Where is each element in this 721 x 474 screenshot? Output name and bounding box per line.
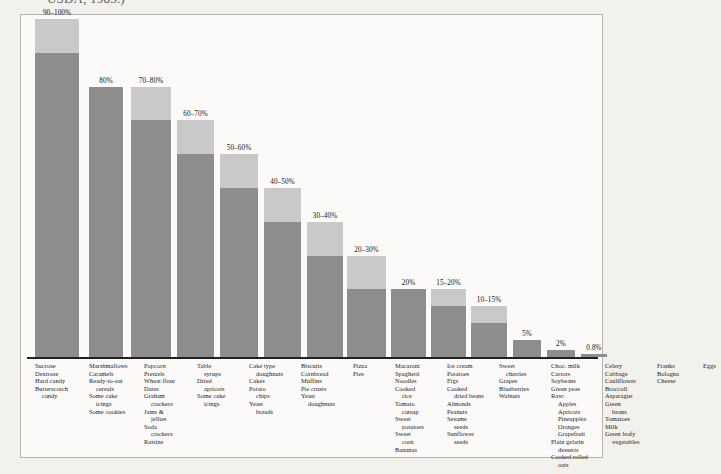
category-label-item: Walnuts	[499, 392, 547, 400]
category-label-item: Bologna	[657, 370, 699, 378]
category-label-item: Choc. milk	[551, 362, 601, 370]
category-label-item: dried beans	[447, 392, 495, 400]
category-label-column: PopcornPretzelsWheat flourDatesGrahamcra…	[144, 362, 192, 446]
bar-column: 50–60%	[220, 154, 258, 357]
category-label-item: seeds	[447, 438, 495, 446]
category-label-item: Some cake	[197, 392, 245, 400]
category-label-item: Eggs	[703, 362, 721, 370]
category-label-item: Cakes	[249, 377, 297, 385]
category-label-item: Spaghetti	[395, 370, 443, 378]
category-label-item: Raw:	[551, 392, 601, 400]
bar-segment-range-low	[35, 53, 79, 357]
bar-column: 2%	[547, 350, 575, 357]
bar-segment-range-high	[431, 289, 466, 306]
category-label-item: Soda	[144, 423, 192, 431]
plot-area: 90–100%80%70–80%60–70%50–60%40–50%30–40%…	[27, 19, 598, 357]
bar-segment-range-low	[131, 120, 171, 357]
bar-column: 30–40%	[307, 222, 343, 357]
category-label-item: seeds	[447, 423, 495, 431]
bar-segment-range-high	[177, 120, 214, 154]
category-label-item: Soybeans	[551, 377, 601, 385]
category-label-item: Cabbage	[605, 370, 653, 378]
category-label-item: Oranges	[551, 423, 601, 431]
category-label-item: apricots	[197, 385, 245, 393]
category-label-item: beans	[605, 408, 653, 416]
category-label-column: Choc. milkCarrotsSoybeansGreen peasRaw:A…	[551, 362, 601, 468]
category-label-item: Caramels	[89, 370, 141, 378]
category-label-item: Potato	[249, 385, 297, 393]
bar-value-label: 0.8%	[586, 344, 601, 352]
category-label-item: Sunflower	[447, 430, 495, 438]
chart-panel: 90–100%80%70–80%60–70%50–60%40–50%30–40%…	[20, 14, 603, 458]
category-label-item: Grapes	[499, 377, 547, 385]
category-label-item: Macaroni	[395, 362, 443, 370]
bar-column: 60–70%	[177, 120, 214, 357]
category-label-item: syrups	[197, 370, 245, 378]
category-label-item: Franks	[657, 362, 699, 370]
category-label-item: crackers	[144, 400, 192, 408]
category-label-item: Popcorn	[144, 362, 192, 370]
category-label-item: cherries	[499, 370, 547, 378]
bar-column: 70–80%	[131, 87, 171, 357]
category-label-item: Potatoes	[447, 370, 495, 378]
category-label-item: Jams &	[144, 408, 192, 416]
category-label-item: Apricots	[551, 408, 601, 416]
category-label-item: candy	[35, 392, 87, 400]
bar-segment-range-high	[264, 188, 301, 222]
category-label-column: MacaroniSpaghettiNoodlesCookedriceTomato…	[395, 362, 443, 453]
category-label-item: chips	[249, 392, 297, 400]
category-label-item: Yeast	[249, 400, 297, 408]
category-label-column: MarshmallowsCaramelsReady-to-eatcerealsS…	[89, 362, 141, 415]
category-label-item: doughnuts	[249, 370, 297, 378]
category-label-item: Dextrose	[35, 370, 87, 378]
category-label-item: Almonds	[447, 400, 495, 408]
bar-column: 10–15%	[471, 306, 507, 357]
caption-text: USDA, 1985.)	[47, 0, 125, 7]
category-label-item: Tomatoes	[605, 415, 653, 423]
category-label-item: potatoes	[395, 423, 443, 431]
category-label-item: Tomato	[395, 400, 443, 408]
category-label-column: FranksBolognaCheese	[657, 362, 699, 385]
category-label-item: Cooked	[447, 385, 495, 393]
bar-value-label: 80%	[99, 77, 112, 85]
category-label-item: cereals	[89, 385, 141, 393]
bar-column: 90–100%	[35, 19, 79, 357]
caption-strip: USDA, 1985.)	[0, 0, 623, 14]
bar-segment-range-high	[35, 19, 79, 53]
category-label-area: SucroseDextroseHard candyButterscotchcan…	[27, 362, 598, 454]
category-label-item: jellies	[144, 415, 192, 423]
bar-segment-range-low	[347, 289, 386, 357]
category-label-item: corn	[395, 438, 443, 446]
category-label-item: Cooked rolled	[551, 453, 601, 461]
category-label-item: Asparagus	[605, 392, 653, 400]
bar-segment-range-high	[347, 256, 386, 290]
bar-column: 80%	[89, 87, 123, 357]
bar-segment-range-low	[431, 306, 466, 357]
category-label-item: Cooked	[395, 385, 443, 393]
category-label-item: Carrots	[551, 370, 601, 378]
bar-segment-range-high	[131, 87, 171, 121]
category-label-item: Green peas	[551, 385, 601, 393]
category-label-item: Pie crusts	[301, 385, 349, 393]
bar-value-label: 70–80%	[139, 77, 164, 85]
x-axis-baseline	[27, 357, 598, 359]
category-label-column: BiscuitsCornbreadMuffinsPie crustsYeastd…	[301, 362, 349, 408]
bar-value-label: 15–20%	[436, 279, 461, 287]
category-label-item: Apples	[551, 400, 601, 408]
bar-value-label: 30–40%	[313, 212, 338, 220]
category-label-item: Bananas	[395, 446, 443, 454]
category-label-item: Raisins	[144, 438, 192, 446]
category-label-item: Noodles	[395, 377, 443, 385]
bar-column: 40–50%	[264, 188, 301, 357]
bar-column: 5%	[513, 340, 541, 357]
category-label-item: Pineapples	[551, 415, 601, 423]
category-label-column: Cake typedoughnutsCakesPotatochipsYeastb…	[249, 362, 297, 415]
category-label-item: Sweet	[499, 362, 547, 370]
category-label-item: Cheese	[657, 377, 699, 385]
bar-value-label: 5%	[522, 330, 532, 338]
category-label-item: Broccoli	[605, 385, 653, 393]
category-label-item: oats	[551, 461, 601, 469]
category-label-item: Sweet	[395, 430, 443, 438]
bar-segment-range-low	[307, 256, 343, 357]
category-label-item: Muffins	[301, 377, 349, 385]
